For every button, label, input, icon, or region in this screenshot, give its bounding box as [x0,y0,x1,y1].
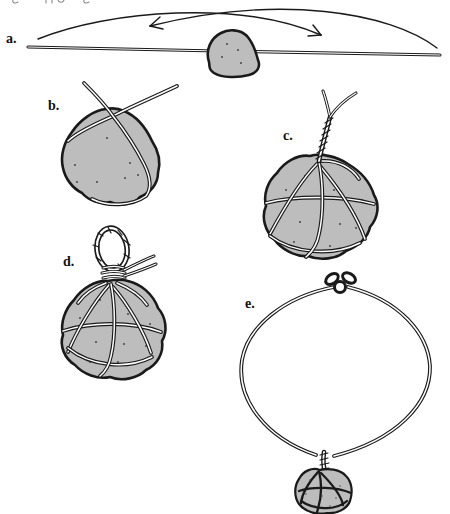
step-a-illustration: a. [6,9,440,77]
step-d-label: d. [63,254,74,269]
figure-canvas: a. b. [0,0,450,514]
stone-b [62,108,159,204]
step-b-illustration: b. [48,83,177,204]
stone-wrapping-diagram: a. b. [0,0,450,514]
step-c-label: c. [283,128,293,143]
necklace-cord [241,287,430,456]
arc-to-left [150,9,437,48]
step-e-illustration: e. [241,271,430,514]
step-a-label: a. [6,31,17,46]
step-e-label: e. [245,296,255,311]
arc-to-right [38,13,321,39]
step-d-illustration: d. [62,226,166,379]
twisted-stem-c [316,91,356,161]
stone-a [208,30,259,77]
step-c-illustration: c. [264,91,378,259]
step-b-label: b. [48,98,59,113]
cropped-text-remnant [13,0,89,3]
twisted-loop-d [93,226,156,278]
